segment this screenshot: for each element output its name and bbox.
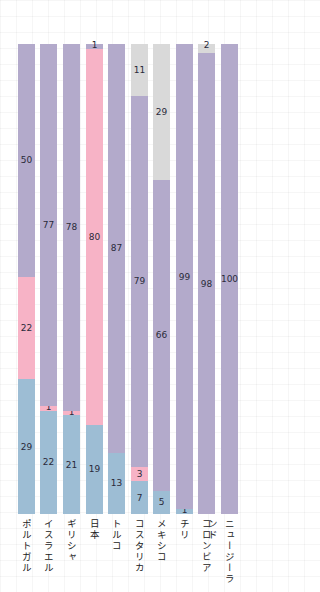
bar-segment: 87 bbox=[108, 44, 125, 453]
segment-value-label: 21 bbox=[66, 460, 77, 469]
category-label: ギリシャ bbox=[63, 519, 80, 563]
bar-segment: 1 bbox=[176, 509, 193, 514]
segment-value-label: 3 bbox=[137, 470, 143, 479]
stacked-bar-chart: 292250ポルトガル22177イスラエル21178ギリシャ19801日本138… bbox=[0, 0, 257, 592]
category-label: チリ bbox=[176, 519, 193, 541]
segment-value-label: 100 bbox=[221, 275, 238, 284]
category-label: ポルトガル bbox=[18, 519, 35, 574]
category-label: コスタリカ bbox=[131, 519, 148, 574]
bar-segment: 100 bbox=[221, 44, 238, 514]
bar-segment: 98 bbox=[198, 53, 215, 514]
category-label: メキシコ bbox=[153, 519, 170, 563]
bar: 292250 bbox=[18, 44, 35, 514]
bar-segment: 2 bbox=[198, 44, 215, 53]
segment-value-label: 29 bbox=[156, 108, 167, 117]
bar: 199 bbox=[176, 44, 193, 514]
category-label: 日本 bbox=[86, 519, 103, 541]
segment-value-label: 98 bbox=[201, 279, 212, 288]
bar-segment: 13 bbox=[108, 453, 125, 514]
bar: 22177 bbox=[40, 44, 57, 514]
category-label: ニュージーランド bbox=[221, 519, 238, 592]
bar-segment: 1 bbox=[63, 411, 80, 416]
segment-value-label: 66 bbox=[156, 331, 167, 340]
segment-value-label: 99 bbox=[179, 272, 190, 281]
bar-segment: 21 bbox=[63, 415, 80, 514]
bar: 100 bbox=[221, 44, 238, 514]
segment-value-label: 5 bbox=[159, 498, 165, 507]
segment-value-label: 7 bbox=[137, 493, 143, 502]
bar-segment: 29 bbox=[153, 44, 170, 180]
bar-segment: 66 bbox=[153, 180, 170, 490]
bar-segment: 80 bbox=[86, 49, 103, 425]
bar-segment: 5 bbox=[153, 491, 170, 515]
segment-value-label: 79 bbox=[134, 277, 145, 286]
bar-segment: 77 bbox=[40, 44, 57, 406]
bar: 21178 bbox=[63, 44, 80, 514]
segment-value-label: 77 bbox=[43, 220, 54, 229]
category-label: トルコ bbox=[108, 519, 125, 552]
segment-value-label: 2 bbox=[204, 41, 210, 50]
bar-segment: 7 bbox=[131, 481, 148, 514]
segment-value-label: 80 bbox=[89, 232, 100, 241]
bar-segment: 19 bbox=[86, 425, 103, 514]
segment-value-label: 22 bbox=[21, 323, 32, 332]
bar-segment: 50 bbox=[18, 44, 35, 277]
bar: 56629 bbox=[153, 44, 170, 514]
bar-segment: 1 bbox=[86, 44, 103, 49]
bar-segment: 22 bbox=[18, 277, 35, 379]
bar-segment: 3 bbox=[131, 467, 148, 481]
bar: 982 bbox=[198, 44, 215, 514]
segment-value-label: 1 bbox=[92, 41, 98, 50]
bar: 1387 bbox=[108, 44, 125, 514]
bar-segment: 1 bbox=[40, 406, 57, 411]
bar-segment: 79 bbox=[131, 96, 148, 467]
bar-segment: 29 bbox=[18, 379, 35, 514]
bar-segment: 22 bbox=[40, 411, 57, 514]
bar-segment: 78 bbox=[63, 44, 80, 411]
segment-value-label: 29 bbox=[21, 442, 32, 451]
category-label: イスラエル bbox=[40, 519, 57, 574]
segment-value-label: 87 bbox=[111, 244, 122, 253]
segment-value-label: 13 bbox=[111, 479, 122, 488]
segment-value-label: 78 bbox=[66, 223, 77, 232]
bar: 737911 bbox=[131, 44, 148, 514]
segment-value-label: 11 bbox=[134, 65, 145, 74]
bar: 19801 bbox=[86, 44, 103, 514]
segment-value-label: 22 bbox=[43, 458, 54, 467]
bar-segment: 11 bbox=[131, 44, 148, 96]
segment-value-label: 19 bbox=[89, 465, 100, 474]
bar-segment: 99 bbox=[176, 44, 193, 509]
segment-value-label: 50 bbox=[21, 156, 32, 165]
